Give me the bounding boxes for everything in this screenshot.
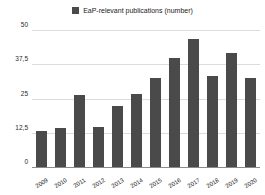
y-axis-tick-label: 12,5 <box>15 123 28 130</box>
x-axis-tick-label: 2016 <box>167 177 182 189</box>
bar-chart: EaP-relevant publications (number) 012,5… <box>0 0 265 195</box>
bar-slot <box>89 31 108 168</box>
bar-slot <box>184 31 203 168</box>
x-tick-slot: 2015 <box>146 171 165 189</box>
x-tick-slot: 2019 <box>222 171 241 189</box>
bar-2010[interactable] <box>55 128 67 168</box>
x-axis-tick-label: 2018 <box>205 177 220 189</box>
bar-slot <box>165 31 184 168</box>
bar-series <box>32 31 260 168</box>
plot-area: 012,52537,550 <box>32 31 260 168</box>
x-axis-tick-label: 2017 <box>186 177 201 189</box>
bar-2018[interactable] <box>207 76 219 168</box>
bar-slot <box>32 31 51 168</box>
x-axis-tick-label: 2014 <box>129 177 144 189</box>
x-tick-slot: 2010 <box>51 171 70 189</box>
bar-2017[interactable] <box>188 39 200 168</box>
bar-2011[interactable] <box>74 95 86 168</box>
x-axis-tick-label: 2020 <box>243 177 258 189</box>
bar-2012[interactable] <box>93 127 105 168</box>
bar-slot <box>127 31 146 168</box>
x-axis-line <box>32 167 260 168</box>
x-axis-tick-label: 2012 <box>91 177 106 189</box>
bar-slot <box>203 31 222 168</box>
legend-label: EaP-relevant publications (number) <box>83 6 193 15</box>
y-axis-tick-label: 37,5 <box>15 55 28 62</box>
bar-2020[interactable] <box>245 78 257 168</box>
x-axis-tick-label: 2015 <box>148 177 163 189</box>
x-tick-slot: 2009 <box>32 171 51 189</box>
bar-2014[interactable] <box>131 94 143 168</box>
bar-2015[interactable] <box>150 78 162 168</box>
bar-slot <box>51 31 70 168</box>
bar-2016[interactable] <box>169 58 181 168</box>
x-axis-tick-label: 2011 <box>72 177 86 189</box>
y-axis-tick-label: 0 <box>24 158 28 165</box>
x-axis-ticks: 2009201020112012201320142015201620172018… <box>32 171 260 189</box>
bar-slot <box>222 31 241 168</box>
y-axis-tick-label: 25 <box>21 89 28 96</box>
y-axis-tick-label: 50 <box>21 21 28 28</box>
x-tick-slot: 2018 <box>203 171 222 189</box>
x-tick-slot: 2011 <box>70 171 89 189</box>
bar-2013[interactable] <box>112 106 124 168</box>
bar-slot <box>70 31 89 168</box>
legend-swatch-icon <box>72 7 79 14</box>
bar-slot <box>146 31 165 168</box>
x-tick-slot: 2012 <box>89 171 108 189</box>
x-axis-tick-label: 2019 <box>224 177 239 189</box>
x-axis-tick-label: 2009 <box>34 177 49 189</box>
x-axis-tick-label: 2013 <box>110 177 125 189</box>
bar-2019[interactable] <box>226 53 238 168</box>
x-tick-slot: 2014 <box>127 171 146 189</box>
x-tick-slot: 2013 <box>108 171 127 189</box>
x-tick-slot: 2016 <box>165 171 184 189</box>
chart-legend: EaP-relevant publications (number) <box>0 6 265 15</box>
x-axis-tick-label: 2010 <box>53 177 68 189</box>
bar-slot <box>241 31 260 168</box>
bar-2009[interactable] <box>36 131 48 168</box>
x-tick-slot: 2020 <box>241 171 260 189</box>
bar-slot <box>108 31 127 168</box>
x-tick-slot: 2017 <box>184 171 203 189</box>
